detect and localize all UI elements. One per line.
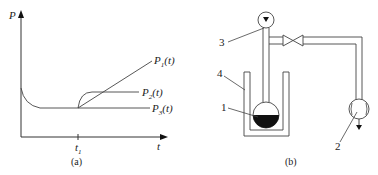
x-axis-label: t [157, 141, 160, 152]
callout-4: 4 [217, 68, 223, 79]
leader-4 [224, 76, 245, 90]
caption-a: (a) [71, 157, 82, 167]
exhaust-arrow-icon [356, 125, 362, 130]
baseline-curve [21, 88, 78, 108]
callout-3: 3 [219, 37, 225, 48]
leader-2 [340, 112, 357, 142]
legend-p1: P1(t) [154, 55, 175, 69]
callout-2: 2 [335, 141, 341, 152]
curve-p2 [78, 92, 139, 108]
y-axis-label: P [9, 10, 16, 21]
caption-b: (b) [285, 157, 297, 167]
legend-p2: P2(t) [142, 87, 163, 101]
legend-p3: P3(t) [152, 103, 173, 117]
x-axis-arrow-icon [160, 134, 168, 140]
curve-p1 [78, 61, 152, 108]
tick-label-t1: t1 [75, 142, 82, 156]
callout-1: 1 [221, 102, 227, 113]
leader-3 [228, 28, 264, 42]
vacuum-pump [349, 99, 369, 119]
figure-canvas [0, 0, 378, 175]
panel-a-axes [21, 16, 163, 140]
y-axis-arrow-icon [18, 10, 24, 18]
